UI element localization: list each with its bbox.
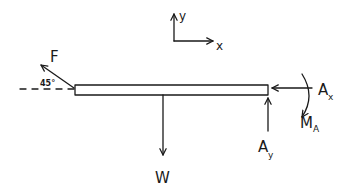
x-axis-label: x (216, 39, 223, 53)
force-f-label: F (50, 48, 59, 66)
reaction-ay: A y (258, 98, 274, 160)
beam (75, 85, 268, 95)
reaction-ax-subscript: x (328, 92, 334, 102)
coordinate-axes: y x (174, 9, 223, 53)
moment-ma-arc (302, 74, 309, 117)
reaction-ay-subscript: y (268, 150, 274, 160)
angle-label: 45° (40, 79, 55, 88)
moment-ma: M A (300, 74, 320, 134)
y-axis-label: y (179, 9, 186, 23)
moment-ma-label: M (300, 114, 313, 132)
force-w-label: W (155, 169, 170, 187)
free-body-diagram: y x F 45° W A x A y M A (0, 0, 350, 192)
reaction-ax: A x (272, 81, 334, 102)
force-f: F 45° (40, 48, 74, 88)
force-w: W (155, 95, 170, 187)
moment-ma-subscript: A (313, 124, 320, 134)
